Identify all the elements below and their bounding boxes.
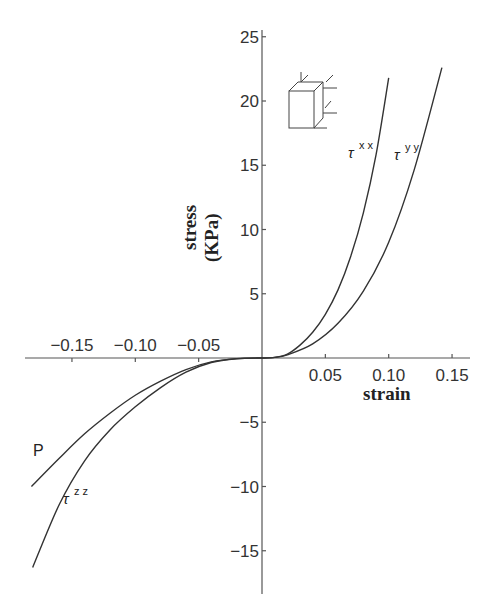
label-tau-zz: τ z z xyxy=(63,485,88,507)
curve-p xyxy=(31,358,262,487)
y-tick-label: 25 xyxy=(240,28,259,47)
svg-text:(KPa): (KPa) xyxy=(201,213,223,262)
y-axis-unit: (KPa) xyxy=(201,213,223,262)
label-tau-xx: τ x x xyxy=(348,139,374,161)
x-tick-label: 0.05 xyxy=(309,366,342,385)
y-tick-label: −10 xyxy=(230,478,259,497)
y-tick-label: −5 xyxy=(240,413,259,432)
svg-text:τ: τ xyxy=(348,144,355,161)
x-tick-label: 0.15 xyxy=(436,366,469,385)
svg-text:y y: y y xyxy=(405,141,420,153)
svg-text:x x: x x xyxy=(359,139,374,151)
x-tick-label: −0.10 xyxy=(114,336,157,355)
svg-text:z z: z z xyxy=(74,485,88,497)
y-tick-label: 5 xyxy=(250,285,259,304)
svg-text:τ: τ xyxy=(63,490,70,507)
label-tau-yy: τ y y xyxy=(394,141,420,163)
y-tick-label: 20 xyxy=(240,92,259,111)
label-p: P xyxy=(33,442,44,459)
cube-stress-icon xyxy=(289,72,337,128)
y-tick-label: −15 xyxy=(230,542,259,561)
curve-zz xyxy=(33,358,262,567)
svg-text:τ: τ xyxy=(394,146,401,163)
svg-text:stress: stress xyxy=(179,205,200,250)
x-ticks: −0.15−0.10−0.050.050.100.15 xyxy=(50,336,468,385)
x-tick-label: −0.15 xyxy=(50,336,93,355)
y-tick-label: 15 xyxy=(240,156,259,175)
x-axis-title: strain xyxy=(363,383,411,404)
y-ticks: 252015105−5−10−15 xyxy=(230,28,266,561)
stress-strain-chart: −0.15−0.10−0.050.050.100.15 252015105−5−… xyxy=(0,0,495,594)
curve-xx xyxy=(262,78,389,358)
y-tick-label: 10 xyxy=(240,221,259,240)
x-tick-label: −0.05 xyxy=(177,336,220,355)
y-axis-title: stress xyxy=(179,205,200,250)
